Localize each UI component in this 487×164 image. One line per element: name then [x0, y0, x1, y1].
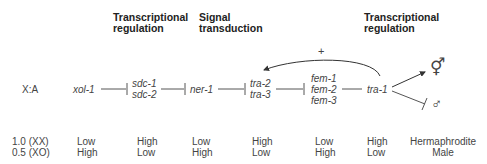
- gene-tra-1: tra-1: [367, 84, 388, 95]
- table-fem-column: Low High: [315, 137, 336, 158]
- gene-tra-2-tra-3: tra-2 tra-3: [250, 78, 271, 100]
- table-xol-column: Low High: [77, 137, 98, 158]
- feedback-plus-label: +: [318, 46, 324, 57]
- x-a-ratio-label: X:A: [22, 84, 38, 95]
- table-tra1-column: High Low: [367, 137, 388, 158]
- table-sex-column: Hermaphrodite Male: [405, 137, 481, 158]
- table-ner-column: Low High: [192, 137, 213, 158]
- male-symbol-icon: ♂: [431, 96, 442, 112]
- table-tra23-column: High Low: [252, 137, 273, 158]
- table-sdc-column: High Low: [137, 137, 158, 158]
- hermaphrodite-symbol-icon: ⚥: [430, 59, 445, 77]
- table-ratio-column: 1.0 (XX) 0.5 (XO): [12, 137, 50, 158]
- gene-ner-1: ner-1: [190, 84, 213, 95]
- gene-fem: fem-1 fem-2 fem-3: [311, 73, 337, 106]
- gene-xol-1: xol-1: [73, 84, 95, 95]
- gene-sdc: sdc-1 sdc-2: [132, 78, 156, 100]
